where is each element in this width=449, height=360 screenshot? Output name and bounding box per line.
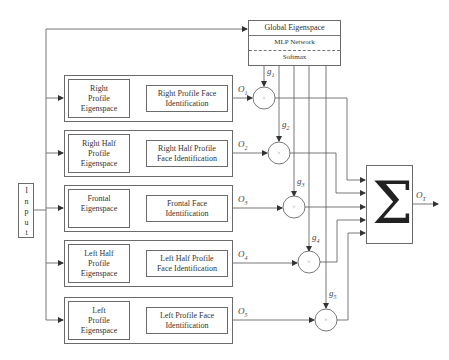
- gate-label-g2: g2: [282, 119, 290, 131]
- multiplier-5: ×: [320, 314, 332, 326]
- label-line: Face Identification: [157, 264, 217, 274]
- eigenspace-box-right-half-profile: Right Half Profile Eigenspace: [68, 134, 130, 173]
- eigenspace-box-left-profile: Left Profile Eigenspace: [68, 301, 130, 340]
- global-title: Global Eigenspace: [249, 23, 340, 32]
- output-label-o2: O2: [238, 139, 248, 151]
- gate-label-g3: g3: [297, 176, 305, 188]
- total-output-label: OT: [416, 190, 426, 202]
- label-line: Eigenspace: [81, 159, 117, 169]
- identification-label: Frontal Face Identification: [147, 196, 227, 221]
- gate-label-g5: g5: [329, 288, 337, 300]
- multiplier-3: ×: [288, 201, 300, 213]
- label-line: Identification: [165, 321, 208, 331]
- input-box: I n p u t: [18, 183, 34, 238]
- label-line: Right Half: [82, 139, 116, 149]
- identification-box-right-profile: Right Profile Face Identification: [146, 85, 228, 112]
- label-line: Identification: [165, 99, 208, 109]
- identification-label: Left Profile Face Identification: [147, 308, 227, 333]
- label-line: Frontal: [87, 194, 110, 204]
- identification-box-left-half-profile: Left Half Profile Face Identification: [146, 250, 228, 277]
- label-line: Face Identification: [157, 154, 217, 164]
- input-letter: u: [19, 218, 34, 229]
- multiplier-1: ×: [258, 92, 270, 104]
- label-line: Eigenspace: [81, 269, 117, 279]
- eigenspace-box-right-profile: Right Profile Eigenspace: [68, 79, 130, 118]
- label-line: Right Profile Face: [158, 89, 217, 99]
- identification-label: Left Half Profile Face Identification: [147, 251, 227, 276]
- input-label: I n p u t: [19, 186, 34, 239]
- output-label-o5: O5: [238, 306, 248, 318]
- output-label-o4: O4: [238, 249, 248, 261]
- label-line: Identification: [165, 209, 208, 219]
- multiplier-4: ×: [303, 256, 315, 268]
- divider: [249, 35, 340, 36]
- dashed-divider: [249, 50, 340, 51]
- label-line: Eigenspace: [81, 326, 117, 336]
- eigenspace-label: Right Profile Eigenspace: [69, 80, 129, 117]
- label-line: Frontal Face: [167, 199, 207, 209]
- label-line: Left Half: [84, 249, 114, 259]
- label-line: Eigenspace: [81, 104, 117, 114]
- sigma-symbol: Σ: [372, 174, 413, 232]
- gate-label-g4: g4: [312, 232, 320, 244]
- eigenspace-label: Left Half Profile Eigenspace: [69, 245, 129, 282]
- label-line: Left: [92, 306, 105, 316]
- eigenspace-label: Right Half Profile Eigenspace: [69, 135, 129, 172]
- label-line: Profile: [88, 259, 110, 269]
- eigenspace-box-left-half-profile: Left Half Profile Eigenspace: [68, 244, 130, 283]
- identification-box-frontal: Frontal Face Identification: [146, 195, 228, 222]
- eigenspace-label: Left Profile Eigenspace: [69, 302, 129, 339]
- identification-label: Right Half Profile Face Identification: [147, 141, 227, 166]
- eigenspace-box-frontal: Frontal Eigenspace: [68, 189, 130, 228]
- label-line: Profile: [88, 316, 110, 326]
- output-label-o1: O1: [238, 84, 248, 96]
- mlp-network-label: MLP Network: [249, 38, 340, 46]
- identification-label: Right Profile Face Identification: [147, 86, 227, 111]
- label-line: Left Half Profile: [160, 254, 213, 264]
- label-line: Right Half Profile: [158, 144, 216, 154]
- label-line: Profile: [88, 94, 110, 104]
- identification-box-right-half-profile: Right Half Profile Face Identification: [146, 140, 228, 167]
- gate-label-g1: g1: [267, 66, 275, 78]
- input-letter: n: [19, 197, 34, 208]
- summation-box: Σ: [366, 165, 413, 244]
- label-line: Eigenspace: [81, 204, 117, 214]
- label-line: Profile: [88, 149, 110, 159]
- eigenspace-label: Frontal Eigenspace: [69, 192, 129, 216]
- softmax-label: Softmax: [249, 53, 340, 61]
- global-eigenspace-box: Global Eigenspace MLP Network Softmax: [248, 20, 341, 66]
- input-letter: t: [19, 228, 34, 239]
- input-letter: I: [19, 186, 34, 197]
- output-label-o3: O3: [238, 194, 248, 206]
- multiplier-2: ×: [273, 147, 285, 159]
- input-letter: p: [19, 207, 34, 218]
- label-line: Right: [90, 84, 108, 94]
- label-line: Left Profile Face: [160, 311, 214, 321]
- identification-box-left-profile: Left Profile Face Identification: [146, 307, 228, 334]
